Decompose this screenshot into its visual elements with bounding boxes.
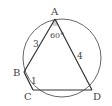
angle-label-a: 60° bbox=[50, 31, 64, 40]
length-label-da: 4 bbox=[77, 51, 83, 61]
point-label-b: B bbox=[13, 67, 20, 78]
length-label-bc: 1 bbox=[31, 76, 37, 86]
segment-da bbox=[55, 19, 92, 90]
geometry-diagram: A B C D 3 1 4 60° bbox=[0, 0, 112, 106]
point-label-a: A bbox=[50, 6, 59, 17]
segment-ab bbox=[24, 19, 55, 72]
point-label-c: C bbox=[24, 91, 32, 102]
length-label-ab: 3 bbox=[33, 39, 39, 49]
point-label-d: D bbox=[93, 91, 101, 102]
